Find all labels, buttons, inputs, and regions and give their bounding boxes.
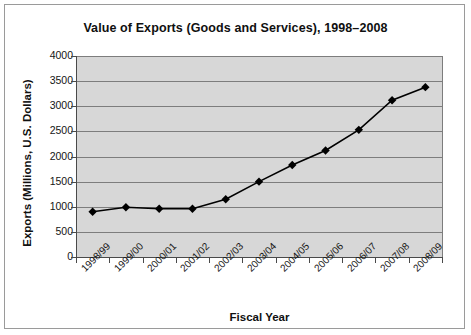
x-tick-mark — [375, 258, 376, 263]
data-point-marker — [188, 205, 196, 213]
data-point-marker — [88, 208, 96, 216]
y-tick-label: 1500 — [39, 176, 73, 186]
series-markers — [88, 83, 429, 216]
data-series-exports — [76, 56, 442, 257]
x-tick-mark — [143, 258, 144, 263]
x-tick-mark — [176, 258, 177, 263]
y-tick-mark — [71, 207, 76, 208]
x-tick-mark — [342, 258, 343, 263]
x-tick-mark — [76, 258, 77, 263]
data-point-marker — [155, 205, 163, 213]
x-tick-mark — [309, 258, 310, 263]
y-axis-title: Exports (Millions, U.S. Dollars) — [21, 58, 33, 268]
y-tick-label: 500 — [39, 226, 73, 236]
y-tick-label: 4000 — [39, 50, 73, 60]
y-tick-mark — [71, 81, 76, 82]
y-tick-mark — [71, 106, 76, 107]
data-point-marker — [255, 177, 263, 185]
chart-title: Value of Exports (Goods and Services), 1… — [5, 21, 466, 35]
y-tick-label: 2000 — [39, 151, 73, 161]
y-tick-mark — [71, 56, 76, 57]
data-point-marker — [222, 195, 230, 203]
x-axis-title: Fiscal Year — [76, 311, 443, 323]
data-point-marker — [421, 83, 429, 91]
y-tick-mark — [71, 131, 76, 132]
y-tick-label: 3000 — [39, 100, 73, 110]
chart-frame: Value of Exports (Goods and Services), 1… — [4, 4, 465, 329]
y-tick-label: 1000 — [39, 201, 73, 211]
x-tick-mark — [209, 258, 210, 263]
y-tick-mark — [71, 157, 76, 158]
y-tick-mark — [71, 182, 76, 183]
x-tick-mark — [242, 258, 243, 263]
data-point-marker — [122, 203, 130, 211]
y-tick-label: 0 — [39, 251, 73, 261]
x-tick-mark — [409, 258, 410, 263]
x-tick-mark — [276, 258, 277, 263]
x-tick-mark — [442, 258, 443, 263]
data-point-marker — [288, 161, 296, 169]
y-tick-mark — [71, 232, 76, 233]
y-axis-tick-labels: 05001000150020002500300035004000 — [35, 5, 73, 335]
x-tick-mark — [109, 258, 110, 263]
y-tick-label: 2500 — [39, 125, 73, 135]
series-line — [93, 87, 426, 212]
y-tick-label: 3500 — [39, 75, 73, 85]
data-point-marker — [321, 146, 329, 154]
